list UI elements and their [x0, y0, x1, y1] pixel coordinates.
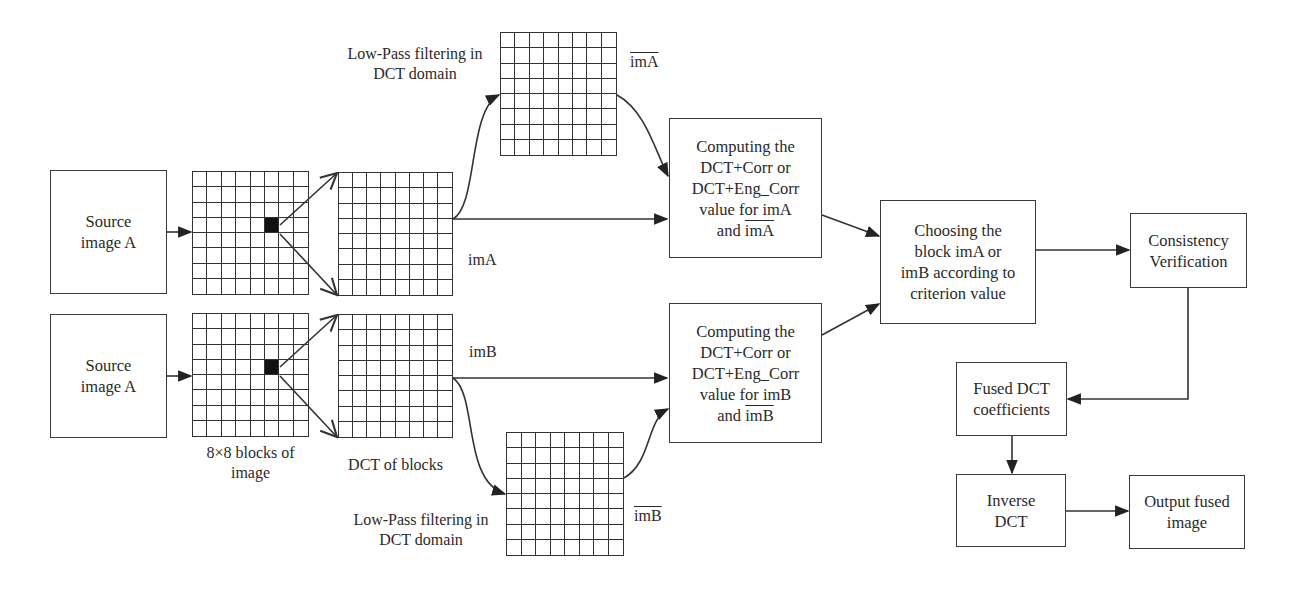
grid-cell [536, 540, 551, 555]
grid-cell [207, 345, 221, 360]
grid-cell [339, 265, 353, 280]
grid-cell [410, 315, 424, 330]
grid-cell [353, 391, 367, 406]
label-line: DCT domain [336, 530, 506, 550]
label-line: Low-Pass filtering in [336, 510, 506, 530]
grid-cell [294, 218, 308, 233]
grid-cell [501, 33, 515, 48]
grid-cell [236, 314, 250, 329]
grid-cell [294, 329, 308, 344]
grid-cell [565, 479, 580, 494]
grid-cell [438, 376, 452, 391]
grid-cell [193, 279, 207, 294]
grid-cell [602, 48, 616, 63]
grid-cell [410, 249, 424, 264]
grid-cell [367, 219, 381, 234]
grid-cell [580, 525, 595, 540]
grid-cell [551, 525, 566, 540]
grid-cell [279, 360, 293, 375]
grid-cell [424, 422, 438, 437]
grid-cell [367, 376, 381, 391]
grid-cell [501, 125, 515, 140]
grid-cell [251, 172, 265, 187]
grid-cell [193, 345, 207, 360]
grid-cell [559, 140, 573, 155]
grid-cell [594, 525, 609, 540]
grid-cell [424, 376, 438, 391]
grid-cell [438, 315, 452, 330]
box-text: Consistency [1148, 230, 1229, 251]
box-text: Verification [1148, 251, 1229, 272]
grid-cell [609, 540, 624, 555]
grid-cell [294, 187, 308, 202]
grid-cell [530, 33, 544, 48]
grid-cell [424, 219, 438, 234]
grid-cell [515, 94, 529, 109]
grid-cell [507, 464, 522, 479]
grid-cell [609, 464, 624, 479]
grid-cell [367, 346, 381, 361]
box-text: DCT+Eng_Corr [692, 363, 799, 384]
imb-bar-label: imB [634, 506, 662, 526]
grid-cell [551, 479, 566, 494]
grid-cell [294, 203, 308, 218]
grid-cell [222, 248, 236, 263]
grid-cell [236, 329, 250, 344]
grid-cell [279, 375, 293, 390]
grid-cell [251, 248, 265, 263]
grid-cell [353, 234, 367, 249]
grid-cell [602, 140, 616, 155]
grid-cell [381, 330, 395, 345]
grid-cell [565, 494, 580, 509]
grid-cell [279, 264, 293, 279]
grid-cell [522, 433, 537, 448]
grid-cell [522, 525, 537, 540]
grid-cell [265, 264, 279, 279]
grid-cell [530, 140, 544, 155]
grid-cell [587, 33, 601, 48]
grid-cell [265, 375, 279, 390]
grid-cell [207, 375, 221, 390]
label-line: Low-Pass filtering in [330, 44, 500, 64]
grid-cell [551, 494, 566, 509]
grid-cell [294, 375, 308, 390]
grid-cell [515, 33, 529, 48]
grid-cell [396, 346, 410, 361]
grid-cell [602, 109, 616, 124]
grid-cell [544, 125, 558, 140]
grid-cell [594, 494, 609, 509]
grid-cell [222, 314, 236, 329]
label-line: image [192, 463, 309, 483]
grid-cell [251, 233, 265, 248]
grid-cell [424, 265, 438, 280]
grid-cell [353, 407, 367, 422]
grid-cell [279, 390, 293, 405]
grid-cell [367, 330, 381, 345]
grid-cell [236, 203, 250, 218]
box-text: image [1144, 512, 1230, 533]
grid-cell [222, 390, 236, 405]
grid-cell [609, 479, 624, 494]
grid-cell [536, 448, 551, 463]
grid-cell [580, 540, 595, 555]
grid-cell [559, 79, 573, 94]
grid-cell [279, 187, 293, 202]
grid-cell [251, 421, 265, 436]
box-text: value for imB [692, 384, 799, 405]
grid-cell [410, 219, 424, 234]
grid-cell [222, 360, 236, 375]
grid-cell [522, 448, 537, 463]
grid-cell [381, 249, 395, 264]
box-text: coefficients [973, 399, 1050, 420]
grid-cell [294, 360, 308, 375]
grid-cell [193, 248, 207, 263]
compute-criterion-box-top: Computing the DCT+Corr or DCT+Eng_Corr v… [669, 118, 822, 258]
grid-cell [602, 64, 616, 79]
blocks-label: 8×8 blocks of image [192, 443, 309, 483]
label-line: DCT domain [330, 64, 500, 84]
box-text-last: and imA [692, 220, 799, 241]
grid-cell [536, 464, 551, 479]
grid-cell [396, 219, 410, 234]
arrow-compute-bottom-to-choose [822, 304, 879, 335]
grid-cell [565, 448, 580, 463]
